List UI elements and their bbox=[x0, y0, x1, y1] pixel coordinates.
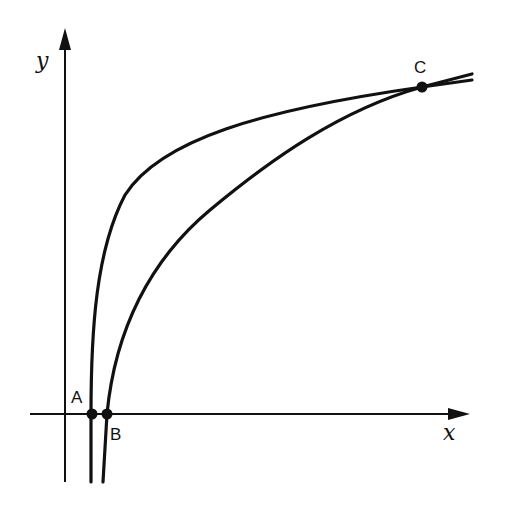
x-axis-label: x bbox=[443, 420, 456, 445]
point-b-marker bbox=[102, 409, 113, 420]
graph: y x A B C bbox=[0, 0, 507, 508]
curve-1 bbox=[91, 74, 472, 482]
point-c-label: C bbox=[414, 58, 426, 77]
point-a-label: A bbox=[71, 388, 83, 407]
y-axis-arrow-icon bbox=[59, 28, 71, 50]
point-c-marker bbox=[417, 82, 428, 93]
x-axis-arrow-icon bbox=[448, 408, 470, 420]
point-b-label: B bbox=[110, 425, 121, 444]
y-axis-label: y bbox=[35, 48, 49, 73]
curve-2 bbox=[103, 80, 472, 482]
point-a-marker bbox=[87, 409, 98, 420]
